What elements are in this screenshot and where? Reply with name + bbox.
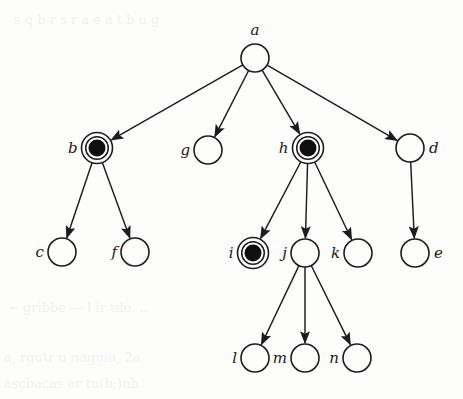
node-f-circle [121, 238, 149, 266]
node-label-m: m [273, 349, 287, 367]
node-c-circle [48, 238, 76, 266]
edge-b-c [67, 163, 92, 238]
node-label-c: c [36, 243, 45, 261]
node-label-f: f [110, 243, 119, 261]
node-d-circle [396, 134, 424, 162]
node-label-g: g [180, 141, 190, 159]
node-d[interactable] [396, 134, 424, 162]
edge-j-l [261, 266, 299, 345]
node-label-e: e [434, 244, 443, 262]
node-k[interactable] [344, 239, 372, 267]
node-a-circle [241, 44, 269, 72]
nodes-layer [48, 44, 429, 372]
node-h[interactable] [293, 133, 324, 164]
node-label-l: l [232, 349, 237, 367]
node-label-n: n [329, 349, 339, 367]
node-label-i: i [229, 244, 234, 262]
edge-a-d [267, 65, 397, 140]
edge-a-h [262, 70, 300, 134]
node-j-circle [291, 239, 319, 267]
edges-layer [67, 65, 415, 345]
node-label-j: j [279, 244, 287, 262]
node-m[interactable] [291, 344, 319, 372]
node-label-k: k [331, 244, 340, 262]
edge-h-i [261, 162, 301, 239]
node-e[interactable] [401, 239, 429, 267]
edge-j-n [311, 266, 350, 345]
node-i-marked-core [245, 245, 262, 262]
node-c[interactable] [48, 238, 76, 266]
edge-a-b [111, 65, 243, 140]
node-l[interactable] [241, 344, 269, 372]
node-g-circle [194, 136, 222, 164]
node-b[interactable] [82, 133, 113, 164]
node-n[interactable] [343, 344, 371, 372]
node-e-circle [401, 239, 429, 267]
node-label-d: d [429, 139, 439, 157]
node-h-marked-core [300, 140, 317, 157]
node-a[interactable] [241, 44, 269, 72]
node-m-circle [291, 344, 319, 372]
tree-diagram-canvas: ~ gribbe — l ir tde. .. a, rgutr u nagul… [0, 0, 463, 399]
node-j[interactable] [291, 239, 319, 267]
node-i[interactable] [238, 238, 269, 269]
tree-graph: abghdcfijkelmn [0, 0, 463, 399]
edge-a-g [215, 70, 249, 136]
node-label-a: a [251, 21, 260, 39]
node-n-circle [343, 344, 371, 372]
node-label-b: b [68, 139, 78, 157]
node-l-circle [241, 344, 269, 372]
labels-layer: abghdcfijkelmn [36, 21, 443, 367]
node-k-circle [344, 239, 372, 267]
edge-h-j [305, 163, 307, 238]
edge-h-k [315, 162, 352, 239]
edge-b-f [102, 163, 130, 238]
node-f[interactable] [121, 238, 149, 266]
node-label-h: h [279, 139, 289, 157]
node-b-marked-core [89, 140, 106, 157]
node-g[interactable] [194, 136, 222, 164]
edge-d-e [411, 162, 415, 238]
